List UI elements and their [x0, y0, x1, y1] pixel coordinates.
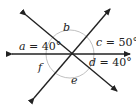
angle-label-f: f — [37, 61, 44, 74]
angles-diagram: a = 40° b c = 50° d = 40° e f — [0, 0, 136, 112]
angle-label-d: d = 40° — [89, 56, 132, 69]
angle-label-a: a = 40° — [19, 40, 61, 53]
angle-label-b: b — [63, 21, 70, 34]
angle-label-c: c = 50° — [96, 36, 136, 49]
angle-label-e: e — [71, 74, 78, 87]
